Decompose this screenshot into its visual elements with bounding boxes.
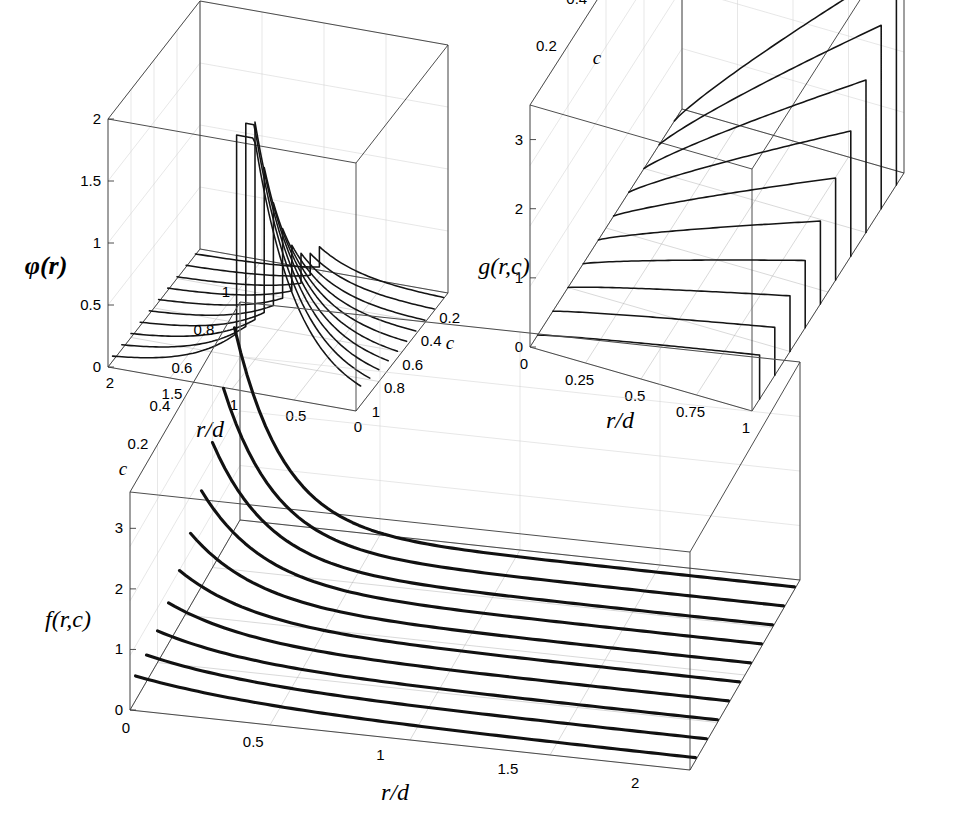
axis-tick-label: 0.75 (676, 403, 705, 420)
axis-tick-label: 0 (515, 338, 523, 355)
chart-f: 012300.511.520.20.40.60.81f(r,c)r/dc (20, 430, 850, 831)
axis-tick-label: 0 (115, 701, 123, 718)
figure-canvas: 00.511.5221.510.500.20.40.60.81φ(r)r/dc … (0, 0, 955, 831)
axis-tick-label: 0.2 (536, 37, 557, 54)
axis-label-y: c (593, 47, 602, 68)
axis-tick-label: 0.5 (286, 407, 307, 424)
axis-tick-label: 3 (115, 519, 123, 536)
axis-tick-label: 0.5 (243, 733, 264, 750)
axis-tick-label: 1 (115, 640, 123, 657)
axis-tick-label: 0.2 (128, 435, 149, 452)
axis-tick-label: 0.5 (625, 387, 646, 404)
panel-g: 012300.250.50.7510.20.40.60.81g(r,c)r/dc (470, 22, 955, 452)
axis-tick-label: 1 (372, 403, 380, 420)
chart-g: 012300.250.50.7510.20.40.60.81g(r,c)r/dc (470, 22, 955, 452)
axis-tick-label: 0.2 (439, 309, 460, 326)
plot-box (108, 1, 448, 411)
panel-phi: 00.511.5221.510.500.20.40.60.81φ(r)r/dc (0, 22, 490, 452)
axis-tick-label: 0.4 (421, 332, 442, 349)
axis-tick-label: 1.5 (497, 760, 518, 777)
axis-label-z: f(r,c) (45, 606, 91, 632)
axis-tick-label: 1 (93, 234, 101, 251)
axis-label-z: φ(r) (25, 251, 68, 280)
axis-tick-label: 0.4 (150, 397, 171, 414)
axis-tick-label: 1 (222, 283, 230, 300)
axis-label-y: c (119, 458, 128, 479)
axis-tick-label: 2 (631, 774, 639, 791)
chart-phi: 00.511.5221.510.500.20.40.60.81φ(r)r/dc (0, 22, 490, 452)
curve-group-phi (113, 122, 444, 386)
axis-label-x: r/d (381, 779, 410, 805)
axis-tick-label: 2 (106, 374, 114, 391)
axis-tick-label: 0.25 (565, 371, 594, 388)
axis-tick-label: 1 (376, 746, 384, 763)
axis-tick-label: 2 (93, 110, 101, 127)
axis-tick-label: 0 (122, 719, 130, 736)
axis-tick-label: 3 (515, 131, 523, 148)
panel-f: 012300.511.520.20.40.60.81f(r,c)r/dc (20, 430, 850, 831)
axis-tick-label: 2 (515, 200, 523, 217)
axis-label-z: g(r,c) (478, 253, 529, 279)
axis-tick-label: 0.6 (402, 356, 423, 373)
axis-tick-label: 2 (115, 580, 123, 597)
axis-tick-label: 0 (93, 358, 101, 375)
plot-box (530, 0, 904, 411)
axis-tick-label: 0.8 (384, 379, 405, 396)
axis-tick-label: 0.6 (172, 359, 193, 376)
axis-label-y: c (446, 332, 455, 353)
axis-tick-label: 0.5 (80, 296, 101, 313)
axis-tick-label: 0.4 (566, 0, 587, 7)
axis-tick-label: 0 (520, 355, 528, 372)
axis-tick-label: 1.5 (80, 172, 101, 189)
axis-tick-label: 0.8 (194, 321, 215, 338)
